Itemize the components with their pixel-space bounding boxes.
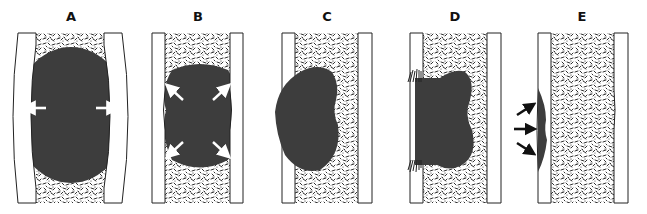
panel-e (514, 33, 628, 203)
right-wall (230, 33, 243, 203)
panel-a (13, 33, 128, 203)
left-wall (152, 33, 165, 203)
panel-label-a: A (56, 9, 86, 24)
panel-label-b: B (183, 9, 213, 24)
right-wall (487, 33, 501, 203)
right-wall (358, 33, 372, 203)
panel-label-d: D (440, 9, 470, 24)
panel-c (275, 33, 372, 203)
panel-label-c: C (312, 9, 342, 24)
panel-b (152, 33, 243, 203)
diagram-figure: A B C D E (0, 0, 647, 214)
panel-label-e: E (567, 9, 597, 24)
right-wall (614, 33, 628, 203)
panel-d (408, 33, 501, 203)
